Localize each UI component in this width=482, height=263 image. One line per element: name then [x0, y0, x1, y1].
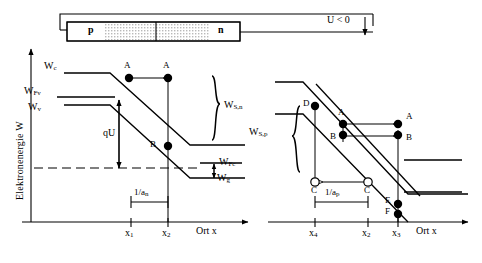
label-wsp-sub: S,p — [258, 130, 267, 138]
carrier-A-right-r — [394, 120, 402, 128]
label-carrier-B-right-r: B — [406, 133, 412, 142]
tick-x4-sub: 4 — [314, 231, 318, 239]
label-wv-sub: v — [37, 105, 41, 113]
tick-x2-left-sub: 2 — [167, 231, 171, 239]
label-wsn-sub: S,n — [233, 103, 242, 111]
label-carrier-E: E — [385, 196, 391, 205]
bias-label: U < 0 — [327, 15, 350, 25]
label-wsp: WS,p — [249, 127, 268, 138]
label-carrier-B: B — [150, 140, 156, 149]
label-carrier-C-right: C — [364, 186, 370, 195]
label-span-left-sub: n — [145, 190, 149, 198]
tick-x3-sub: 3 — [397, 231, 401, 239]
tick-x4: x4 — [309, 228, 318, 239]
device-n-label: n — [218, 25, 224, 35]
label-span-right-main: 1/a — [325, 187, 336, 197]
label-span-right-sub: p — [336, 190, 340, 198]
device-p-label: p — [88, 25, 94, 35]
label-carrier-B-left-r: B — [330, 132, 336, 141]
label-carrier-A-right: A — [163, 61, 170, 70]
x-axis-title-right: Ort x — [416, 226, 437, 236]
label-span-left-main: 1/a — [134, 187, 145, 197]
brace-wsn — [212, 76, 220, 140]
brace-wsp — [292, 106, 300, 172]
label-wsn: WS,n — [224, 100, 243, 111]
label-wv: Wv — [28, 102, 41, 113]
carrier-markers — [125, 74, 402, 218]
label-span-right: 1/ap — [325, 188, 340, 198]
label-wfv-sub: Fv — [33, 89, 40, 97]
label-span-left: 1/an — [134, 188, 149, 198]
label-carrier-A-left: A — [124, 61, 131, 70]
label-wfc: WFc — [219, 157, 235, 168]
tick-x3: x3 — [392, 228, 401, 239]
label-wc: Wc — [44, 61, 57, 72]
label-wfv: WFv — [24, 86, 41, 97]
left-band-structure — [34, 73, 245, 178]
label-carrier-D: D — [303, 99, 310, 108]
label-wc-sub: c — [53, 64, 56, 72]
label-wg: Wg — [217, 173, 230, 184]
carrier-E — [394, 200, 402, 208]
x-axis-title-left: Ort x — [196, 226, 217, 236]
label-wg-sub: g — [226, 176, 230, 184]
label-carrier-F: F — [385, 207, 390, 216]
tick-x2-right: x2 — [362, 228, 371, 239]
carrier-D — [311, 102, 319, 110]
tick-x1-sub: 1 — [130, 231, 134, 239]
figure-root: Elektronenergie W — [0, 0, 482, 263]
carrier-F — [394, 210, 402, 218]
carrier-B-right-r — [394, 131, 402, 139]
tick-x2-right-sub: 2 — [367, 231, 371, 239]
carrier-A-left — [125, 74, 133, 82]
label-qu: qU — [103, 128, 115, 138]
carrier-B — [164, 142, 172, 150]
label-carrier-A-right-r: A — [406, 112, 413, 121]
tick-x1: x1 — [125, 228, 134, 239]
carrier-A-right — [164, 74, 172, 82]
span-bar-right — [315, 196, 368, 208]
tick-x2-left: x2 — [162, 228, 171, 239]
label-wfc-sub: Fc — [228, 160, 235, 168]
carrier-A-left-r — [339, 120, 347, 128]
carrier-B-left-r — [339, 131, 347, 139]
label-carrier-C-left: C — [311, 186, 317, 195]
label-carrier-A-left-r: A — [338, 108, 345, 117]
right-transition-arrows — [346, 124, 396, 136]
